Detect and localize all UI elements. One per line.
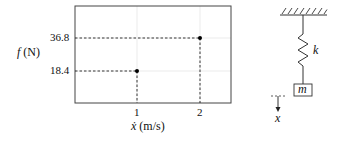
y-axis-label: f (N): [17, 45, 40, 60]
spring-constant-label: k: [313, 43, 318, 58]
data-point-2: [198, 36, 202, 40]
y-axis-unit: (N): [20, 45, 40, 59]
plot: [75, 6, 231, 103]
plot-frame: [75, 6, 231, 103]
x-tick-1: 1: [134, 106, 140, 118]
x-tick-2: 2: [197, 106, 203, 118]
x-axis-label: ẋ (m/s): [131, 119, 165, 134]
displacement-label: x: [275, 111, 280, 126]
y-tick-36.8: 36.8: [50, 31, 69, 43]
ceiling-hatch: [282, 8, 327, 14]
spring: [298, 15, 308, 84]
data-point-1: [135, 69, 139, 73]
x-axis-unit: (m/s): [136, 119, 164, 133]
mass-label: m: [298, 82, 307, 97]
grid: [75, 6, 231, 103]
y-tick-18.4: 18.4: [50, 64, 69, 76]
